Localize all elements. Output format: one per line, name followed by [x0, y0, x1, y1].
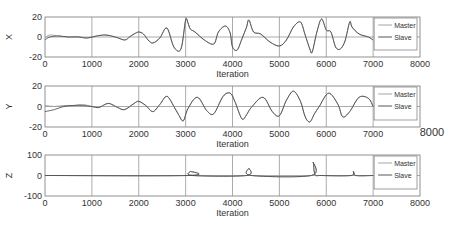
x-tick-label: 0	[42, 129, 47, 139]
x-tick-label: 7000	[363, 59, 383, 69]
y-tick-label: -20	[29, 52, 42, 62]
x-tick-label: 4000	[222, 59, 242, 69]
x-tick-label: 4000	[222, 129, 242, 139]
y-tick-label: 0	[37, 102, 42, 112]
x-tick-label: 2000	[129, 198, 149, 208]
legend-label-master: Master	[394, 22, 416, 29]
x-tick-label: 7000	[363, 198, 383, 208]
legend: MasterSlave	[374, 18, 417, 50]
figure: 200-20010002000300040005000600070008000X…	[0, 0, 467, 225]
x-tick-label: 8000	[410, 59, 430, 69]
x-tick-label: 7000	[363, 129, 383, 139]
legend-label-slave: Slave	[394, 34, 412, 41]
y-tick-label: -100	[24, 191, 42, 201]
x-tick-label: 2000	[129, 59, 149, 69]
x-tick-label: 4000	[222, 198, 242, 208]
panel-y: 200-20010002000300040005000600070008000Y…	[4, 81, 444, 149]
x-tick-label: 5000	[269, 59, 289, 69]
y-tick-label: 0	[37, 32, 42, 42]
x-tick-label: 2000	[129, 129, 149, 139]
legend: MasterSlave	[374, 156, 417, 189]
y-axis-label: X	[4, 34, 14, 40]
legend-label-slave: Slave	[394, 103, 412, 110]
y-axis-label: Y	[4, 103, 14, 109]
y-tick-label: -20	[29, 122, 42, 132]
x-tick-label: 3000	[176, 198, 196, 208]
x-tick-label: 0	[42, 198, 47, 208]
legend-label-master: Master	[394, 160, 416, 167]
y-tick-label: 20	[32, 81, 42, 91]
x-tick-label: 6000	[316, 198, 336, 208]
y-tick-label: 0	[37, 171, 42, 181]
legend-label-master: Master	[394, 91, 416, 98]
x-tick-label: 0	[42, 59, 47, 69]
y-tick-label: 20	[32, 12, 42, 22]
panel-x: 200-20010002000300040005000600070008000X…	[4, 12, 430, 79]
x-axis-label: Iteration	[216, 139, 249, 149]
x-tick-label: 5000	[269, 198, 289, 208]
legend: MasterSlave	[374, 87, 417, 120]
x-tick-label: 5000	[269, 129, 289, 139]
y-axis-label: Z	[4, 172, 14, 178]
legend-label-slave: Slave	[394, 172, 412, 179]
x-axis-label: Iteration	[216, 208, 249, 218]
x-tick-label: 6000	[316, 59, 336, 69]
x-axis-label: Iteration	[216, 69, 249, 79]
x-tick-label: 1000	[82, 129, 102, 139]
x-tick-label: 8000	[410, 198, 430, 208]
x-tick-label: 3000	[176, 59, 196, 69]
x-tick-label: 1000	[82, 198, 102, 208]
x-tick-label: 1000	[82, 59, 102, 69]
x-tick-label: 3000	[176, 129, 196, 139]
x-tick-label: 6000	[316, 129, 336, 139]
panel-z: 1000-10001000200030004000500060007000800…	[4, 150, 430, 218]
x-tick-label-large: 8000	[420, 126, 444, 138]
y-tick-label: 100	[27, 150, 42, 160]
